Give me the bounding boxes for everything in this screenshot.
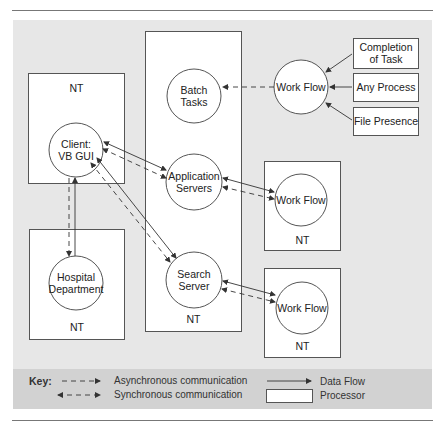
processor-hospital-label: NT bbox=[29, 321, 125, 333]
key-processor-glyph bbox=[267, 390, 313, 403]
processor-workflow-2-label: NT bbox=[264, 340, 341, 352]
node-workflow-top-label: Work Flow bbox=[271, 81, 331, 93]
node-search-server-label: Search Server bbox=[164, 268, 224, 292]
node-batch-line1: Batch bbox=[164, 84, 224, 96]
key-dataflow-label: Data Flow bbox=[320, 376, 365, 387]
processor-workflow-1-label: NT bbox=[264, 234, 341, 246]
key-processor-label: Processor bbox=[320, 390, 365, 401]
node-app-servers-line2: Servers bbox=[160, 182, 228, 194]
node-client-line1: Client: bbox=[46, 138, 106, 150]
trigger-completion-line2: of Task bbox=[353, 53, 419, 65]
node-hospital-line1: Hospital bbox=[40, 271, 112, 283]
key-sync-label: Synchronous communication bbox=[114, 389, 242, 400]
node-client-label: Client: VB GUI bbox=[46, 138, 106, 162]
key-async-label: Asynchronous communication bbox=[114, 375, 247, 386]
node-hospital-label: Hospital Department bbox=[40, 271, 112, 295]
trigger-completion-label: Completion of Task bbox=[353, 41, 419, 65]
edge-filepresence-workflow bbox=[326, 103, 352, 120]
node-client-line2: VB GUI bbox=[46, 150, 106, 162]
node-workflow-2-label: Work Flow bbox=[272, 302, 332, 314]
edge-completion-workflow bbox=[326, 54, 352, 72]
key-title: Key: bbox=[29, 375, 52, 387]
trigger-completion-line1: Completion bbox=[353, 41, 419, 53]
node-batch-label: Batch Tasks bbox=[164, 84, 224, 108]
node-search-server-line2: Server bbox=[164, 280, 224, 292]
node-hospital-line2: Department bbox=[40, 283, 112, 295]
node-app-servers-label: Application Servers bbox=[160, 170, 228, 194]
trigger-any-process-label: Any Process bbox=[353, 81, 419, 93]
node-search-server-line1: Search bbox=[164, 268, 224, 280]
processor-center-label: NT bbox=[145, 313, 242, 325]
node-batch-line2: Tasks bbox=[164, 96, 224, 108]
node-workflow-1-label: Work Flow bbox=[271, 194, 331, 206]
node-app-servers-line1: Application bbox=[160, 170, 228, 182]
trigger-file-presence-label: File Presence bbox=[353, 115, 419, 127]
processor-client-label: NT bbox=[28, 82, 125, 94]
